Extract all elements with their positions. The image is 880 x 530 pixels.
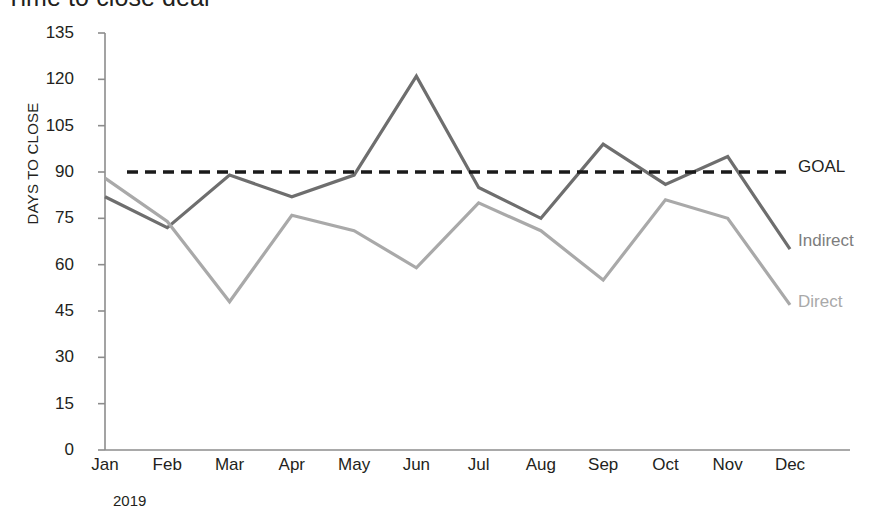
- x-tick-label: Nov: [693, 455, 763, 475]
- x-tick-label: Dec: [755, 455, 825, 475]
- x-tick-label: May: [319, 455, 389, 475]
- x-tick-label: Apr: [257, 455, 327, 475]
- x-tick-label: Jan: [70, 455, 140, 475]
- series-label-direct: Direct: [798, 292, 842, 312]
- x-tick-label: Jul: [444, 455, 514, 475]
- x-axis-tick-labels: JanFebMarAprMayJunJulAugSepOctNovDec: [0, 0, 880, 530]
- x-tick-label: Feb: [132, 455, 202, 475]
- series-label-indirect: Indirect: [798, 231, 854, 251]
- x-tick-label: Aug: [506, 455, 576, 475]
- line-chart: Time to close deal DAYS TO CLOSE 0153045…: [0, 0, 880, 530]
- x-tick-label: Mar: [195, 455, 265, 475]
- series-label-goal: GOAL: [798, 157, 845, 177]
- x-tick-label: Oct: [630, 455, 700, 475]
- x-tick-label: Jun: [381, 455, 451, 475]
- x-tick-label: Sep: [568, 455, 638, 475]
- x-axis-period-label: 2019: [113, 492, 146, 509]
